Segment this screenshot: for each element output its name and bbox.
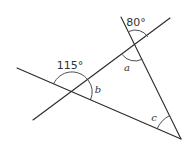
label-80-degrees: 80° [126, 16, 146, 29]
arc-80 [129, 30, 148, 37]
label-b: b [95, 84, 101, 95]
label-a: a [124, 62, 130, 73]
label-115-degrees: 115° [57, 59, 84, 72]
arc-115 [54, 72, 88, 84]
arc-c [157, 116, 169, 129]
angle-diagram: 80° a 115° b c [0, 0, 188, 152]
arc-a [122, 55, 142, 61]
arc-b [88, 80, 92, 100]
label-c: c [151, 112, 157, 123]
falling-line [17, 68, 181, 139]
